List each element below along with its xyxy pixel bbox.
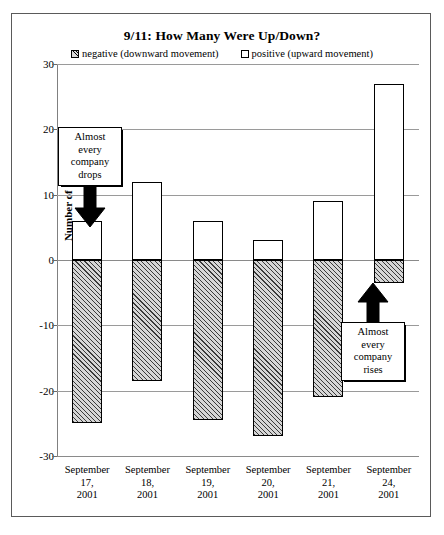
x-label-sept-21-line-2: 21,	[298, 477, 358, 490]
x-label-sept-18-line-2: 18,	[117, 477, 177, 490]
bar-positive-sept-24[interactable]	[374, 84, 404, 260]
legend-label-positive: positive (upward movement)	[252, 48, 373, 59]
x-axis-labels: September 17, 2001 September 18, 2001 Se…	[57, 464, 419, 512]
chart-page: 9/11: How Many Were Up/Down? negative (d…	[0, 0, 444, 535]
chart-frame: 9/11: How Many Were Up/Down? negative (d…	[11, 13, 431, 517]
bar-negative-sept-17[interactable]	[72, 260, 102, 423]
bar-group-sept-20	[238, 64, 298, 456]
x-label-sept-17-line-1: September	[57, 464, 117, 477]
annotation-drops-line-4: drops	[59, 169, 121, 182]
x-label-sept-20-line-1: September	[238, 464, 298, 477]
bar-positive-sept-19[interactable]	[193, 221, 223, 260]
x-axis-line	[57, 456, 419, 457]
x-label-sept-19-line-2: 19,	[178, 477, 238, 490]
x-label-sept-19-line-1: September	[178, 464, 238, 477]
annotation-up-arrow-icon	[357, 282, 389, 326]
legend-swatch-positive-icon	[241, 50, 249, 58]
bar-negative-sept-24[interactable]	[374, 260, 404, 283]
bar-group-sept-18	[117, 64, 177, 456]
bar-negative-sept-19[interactable]	[193, 260, 223, 420]
x-label-sept-17-line-2: 17,	[57, 477, 117, 490]
bar-group-sept-17	[57, 64, 117, 456]
x-label-sept-17-line-3: 2001	[57, 489, 117, 502]
annotation-drops-line-2: every	[59, 144, 121, 157]
annotation-rises-line-1: Almost	[342, 326, 404, 339]
x-label-sept-24-line-1: September	[359, 464, 419, 477]
x-label-sept-17: September 17, 2001	[57, 464, 117, 502]
bar-negative-sept-20[interactable]	[253, 260, 283, 436]
y-tick-label-0: 0	[14, 254, 54, 266]
bar-group-sept-19	[178, 64, 238, 456]
x-label-sept-18-line-3: 2001	[117, 489, 177, 502]
x-label-sept-21-line-3: 2001	[298, 489, 358, 502]
x-label-sept-20-line-2: 20,	[238, 477, 298, 490]
y-tick-label-20: 20	[14, 123, 54, 135]
y-tick-label-10: 10	[14, 189, 54, 201]
x-label-sept-24-line-2: 24,	[359, 477, 419, 490]
x-label-sept-20: September 20, 2001	[238, 464, 298, 502]
y-tick-mark-neg30	[52, 456, 57, 457]
y-axis-tick-labels: 30 20 10 0 -10 -20 -30	[12, 64, 54, 456]
annotation-drops-line-3: company	[59, 156, 121, 169]
annotation-drops-box: Almost every company drops	[58, 127, 122, 186]
annotation-rises-line-2: every	[342, 339, 404, 352]
annotation-drops-line-1: Almost	[59, 131, 121, 144]
legend-label-negative: negative (downward movement)	[82, 48, 218, 59]
y-tick-label-neg20: -20	[14, 385, 54, 397]
y-tick-label-30: 30	[14, 58, 54, 70]
x-label-sept-19: September 19, 2001	[178, 464, 238, 502]
bar-negative-sept-18[interactable]	[132, 260, 162, 381]
legend-item-negative: negative (downward movement)	[71, 48, 218, 59]
x-label-sept-24: September 24, 2001	[359, 464, 419, 502]
x-label-sept-20-line-3: 2001	[238, 489, 298, 502]
x-label-sept-21-line-1: September	[298, 464, 358, 477]
y-tick-label-neg10: -10	[14, 319, 54, 331]
annotation-rises-box: Almost every company rises	[341, 322, 405, 381]
x-label-sept-21: September 21, 2001	[298, 464, 358, 502]
x-label-sept-18: September 18, 2001	[117, 464, 177, 502]
x-label-sept-24-line-3: 2001	[359, 489, 419, 502]
bar-positive-sept-21[interactable]	[313, 201, 343, 260]
chart-legend: negative (downward movement) positive (u…	[12, 48, 432, 59]
bar-negative-sept-21[interactable]	[313, 260, 343, 397]
plot-area	[57, 64, 419, 456]
bar-positive-sept-18[interactable]	[132, 182, 162, 260]
y-tick-label-neg30: -30	[14, 450, 54, 462]
bar-group-sept-24	[359, 64, 419, 456]
annotation-rises-line-4: rises	[342, 364, 404, 377]
chart-title: 9/11: How Many Were Up/Down?	[12, 28, 432, 44]
legend-swatch-negative-icon	[71, 50, 79, 58]
legend-item-positive: positive (upward movement)	[241, 48, 373, 59]
x-label-sept-18-line-1: September	[117, 464, 177, 477]
bar-positive-sept-20[interactable]	[253, 240, 283, 260]
annotation-down-arrow-icon	[74, 184, 106, 228]
x-label-sept-19-line-3: 2001	[178, 489, 238, 502]
annotation-rises-line-3: company	[342, 351, 404, 364]
bar-group-sept-21	[298, 64, 358, 456]
